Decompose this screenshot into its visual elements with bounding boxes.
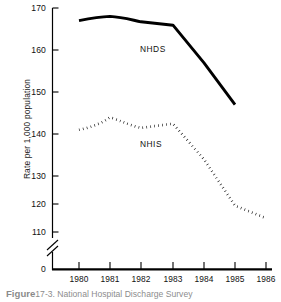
- y-tick-label-110: 110: [20, 227, 46, 237]
- figure-caption-text: 17-3. National Hospital Discharge Survey: [35, 289, 192, 299]
- x-tick-label-1984: 1984: [189, 274, 219, 284]
- series-label-nhis: NHIS: [140, 139, 162, 149]
- y-tick-label-170: 170: [20, 3, 46, 13]
- x-tick-marks: [79, 262, 266, 269]
- y-tick-label-150: 150: [20, 87, 46, 97]
- x-tick-label-1981: 1981: [95, 274, 125, 284]
- x-tick-label-1985: 1985: [220, 274, 250, 284]
- x-tick-label-1982: 1982: [126, 274, 156, 284]
- series-line-nhds: [79, 16, 235, 104]
- y-tick-label-0: 0: [20, 264, 46, 274]
- figure-caption: Figure17-3. National Hospital Discharge …: [6, 288, 281, 299]
- y-tick-label-140: 140: [20, 129, 46, 139]
- series-line-nhis: [79, 117, 266, 218]
- x-tick-label-1983: 1983: [158, 274, 188, 284]
- x-tick-label-1986: 1986: [251, 274, 281, 284]
- y-tick-label-120: 120: [20, 199, 46, 209]
- series-label-nhds: NHDS: [140, 44, 166, 54]
- y-tick-label-130: 130: [20, 171, 46, 181]
- x-tick-label-1980: 1980: [64, 274, 94, 284]
- figure-caption-label: Figure: [6, 288, 35, 299]
- y-tick-marks: [53, 8, 59, 232]
- figure-container: Rate per 1,000 population: [0, 0, 281, 302]
- y-tick-label-160: 160: [20, 45, 46, 55]
